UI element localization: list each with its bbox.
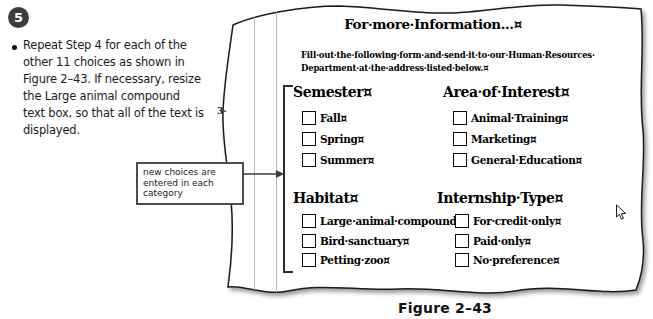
- section-heading-semester: Semester¤: [293, 84, 372, 100]
- checkbox-label: Fall¤: [320, 112, 347, 124]
- checkbox-label: General·Education¤: [471, 154, 582, 166]
- torn-edge-text-fragment: 3·: [217, 106, 226, 116]
- section-heading-habitat: Habitat¤: [293, 190, 358, 206]
- checkbox-petting-zoo[interactable]: [302, 253, 316, 267]
- checkbox-for-credit-only[interactable]: [455, 214, 469, 228]
- checkbox-large-animal-compound[interactable]: [302, 214, 316, 228]
- checkbox-label: Animal·Training¤: [471, 112, 568, 124]
- checkbox-bird-sanctuary[interactable]: [302, 234, 316, 248]
- intro-line: Fill·out·the·following·form·and·send·it·…: [301, 49, 595, 62]
- form-row: Spring¤: [302, 132, 364, 146]
- screenshot-canvas: 5 Repeat Step 4 for each of the other 11…: [0, 0, 653, 319]
- section-heading-internship-type: Internship·Type¤: [437, 190, 563, 206]
- form-row: Bird·sanctuary¤: [302, 234, 409, 248]
- checkbox-paid-only[interactable]: [455, 234, 469, 248]
- checkbox-label: Bird·sanctuary¤: [320, 235, 409, 247]
- callout-annotation: new choices are entered in each category: [136, 162, 244, 205]
- checkbox-label: Large·animal·compound¤: [320, 215, 463, 227]
- form-row: For·credit·only¤: [455, 214, 561, 228]
- checkbox-animal-training[interactable]: [453, 111, 467, 125]
- form-row: Paid·only¤: [455, 234, 531, 248]
- callout-line: entered in each: [143, 178, 237, 189]
- checkbox-summer[interactable]: [302, 153, 316, 167]
- checkbox-label: Paid·only¤: [473, 235, 531, 247]
- checkbox-label: For·credit·only¤: [473, 215, 561, 227]
- checkbox-label: Petting·zoo¤: [320, 254, 390, 266]
- section-heading-area-of-interest: Area·of·Interest¤: [443, 84, 569, 100]
- checkbox-label: No·preference¤: [473, 254, 559, 266]
- form-row: Petting·zoo¤: [302, 253, 390, 267]
- checkbox-label: Marketing¤: [471, 133, 536, 145]
- checkbox-marketing[interactable]: [453, 132, 467, 146]
- intro-line: Department·at·the·address·listed·below.¤: [301, 62, 595, 75]
- form-row: Animal·Training¤: [453, 111, 568, 125]
- checkbox-label: Spring¤: [320, 133, 364, 145]
- form-row: Marketing¤: [453, 132, 536, 146]
- form-row: Fall¤: [302, 111, 347, 125]
- checkbox-label: Summer¤: [320, 154, 374, 166]
- form-title: For·more·Information...¤: [273, 16, 593, 32]
- form-row: General·Education¤: [453, 153, 582, 167]
- figure-caption: Figure 2–43: [398, 300, 492, 316]
- checkbox-no-preference[interactable]: [455, 253, 469, 267]
- checkbox-spring[interactable]: [302, 132, 316, 146]
- form-row: Summer¤: [302, 153, 374, 167]
- callout-line: category: [143, 188, 237, 199]
- callout-line: new choices are: [143, 167, 237, 178]
- checkbox-general-education[interactable]: [453, 153, 467, 167]
- form-row: Large·animal·compound¤: [302, 214, 463, 228]
- checkbox-fall[interactable]: [302, 111, 316, 125]
- callout-arrow-icon: [243, 168, 285, 180]
- mouse-cursor-icon: [615, 204, 627, 221]
- form-row: No·preference¤: [455, 253, 559, 267]
- form-intro-paragraph: Fill·out·the·following·form·and·send·it·…: [301, 49, 595, 75]
